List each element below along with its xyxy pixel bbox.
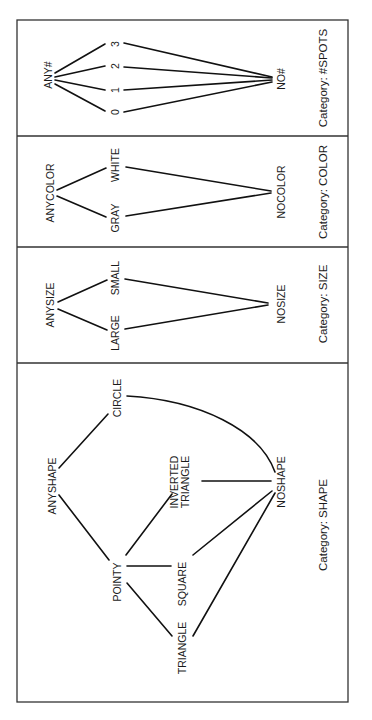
edge [127, 583, 172, 636]
category-label-spots: Category: #SPOTS [317, 28, 329, 127]
edge [126, 193, 271, 216]
node-label-gray: GRAY [109, 204, 121, 233]
category-label-size: Category: SIZE [317, 264, 329, 343]
category-label-color: Category: COLOR [317, 145, 329, 239]
node-label-circle: CIRCLE [111, 379, 123, 418]
edge [126, 494, 172, 555]
edge [59, 414, 108, 468]
node-label-no: NO# [275, 68, 287, 90]
edge [126, 167, 271, 191]
panel-color: ANYCOLORWHITEGRAYNOCOLORCategory: COLOR [44, 145, 329, 239]
node-label-large: LARGE [109, 315, 121, 351]
node-label-s1: 1 [109, 87, 121, 93]
node-label-s3: 3 [109, 41, 121, 47]
edge [124, 82, 272, 112]
edge [55, 44, 105, 73]
curved-edge [127, 396, 275, 472]
node-label-no: NOSIZE [275, 284, 287, 323]
edge [57, 196, 106, 217]
edge [57, 168, 106, 190]
node-label-no: NOCOLOR [275, 165, 287, 219]
panel-shape: CIRCLEANYSHAPEINVERTEDTRIANGLENOSHAPEPOI… [46, 379, 329, 675]
node-label-white: WHITE [109, 148, 121, 182]
node-label-small: SMALL [109, 261, 121, 296]
node-label-any: ANYCOLOR [44, 163, 56, 222]
category-panels: ANY#3210NO#Category: #SPOTSANYCOLORWHITE… [42, 28, 329, 674]
panel-size: ANYSIZESMALLLARGENOSIZECategory: SIZE [44, 261, 329, 351]
category-diagram: ANY#3210NO#Category: #SPOTSANYCOLORWHITE… [0, 0, 372, 720]
edge [193, 493, 275, 636]
node-label-any: ANYSHAPE [46, 457, 58, 514]
panel-dividers [17, 136, 348, 363]
edge [58, 309, 107, 330]
edge [125, 305, 268, 329]
node-label-no: NOSHAPE [275, 456, 287, 507]
category-label-shape: Category: SHAPE [317, 479, 329, 571]
edge [58, 280, 107, 302]
panel-spots: ANY#3210NO#Category: #SPOTS [42, 28, 329, 127]
node-label-pointy: POINTY [111, 562, 123, 601]
edge [55, 66, 105, 77]
node-label-square: SQUARE [176, 562, 188, 606]
node-label-s2: 2 [109, 63, 121, 69]
edge [125, 279, 268, 303]
edge [59, 495, 109, 560]
edge [124, 80, 272, 90]
node-label-any: ANY# [42, 61, 54, 89]
edge [193, 491, 272, 555]
node-label-any: ANYSIZE [44, 283, 56, 328]
node-label-inverted: INVERTEDTRIANGLE [168, 455, 191, 508]
node-label-triangle: TRIANGLE [176, 622, 188, 675]
node-label-s0: 0 [109, 109, 121, 115]
